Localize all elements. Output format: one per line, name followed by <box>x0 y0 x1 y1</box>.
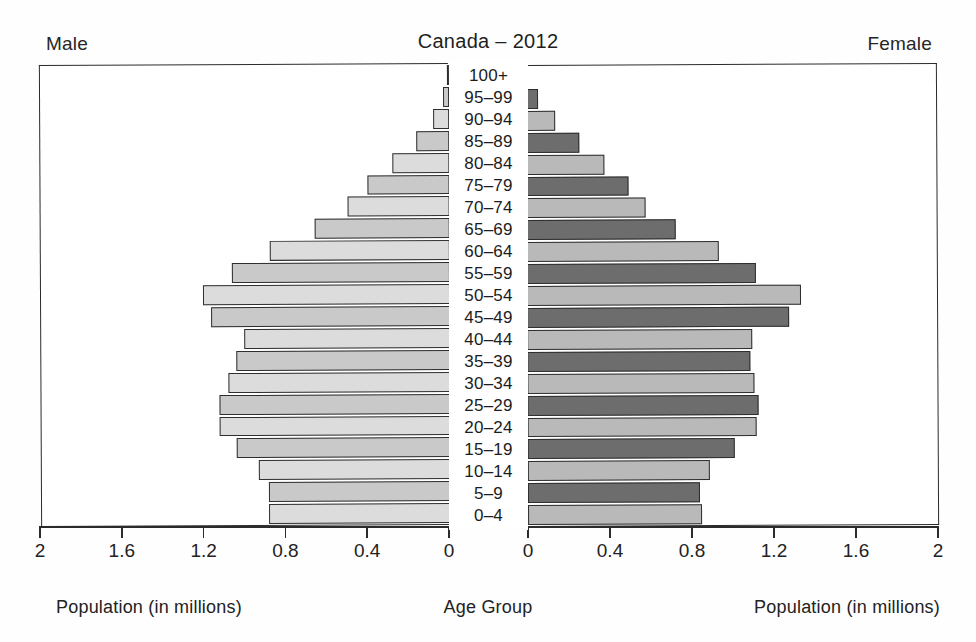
age-group-label: 35–39 <box>464 353 512 370</box>
bar-male-20_24 <box>220 415 451 436</box>
bar-row <box>527 152 936 176</box>
bar-row <box>41 261 449 285</box>
bar-row <box>41 371 449 395</box>
age-group-label-row: 50–54 <box>449 284 528 306</box>
age-group-label-row: 60–64 <box>449 240 528 262</box>
bar-female-90_94 <box>526 111 555 131</box>
bar-row <box>528 217 937 241</box>
age-group-label: 80–84 <box>464 155 512 172</box>
age-group-label-row: 100+ <box>449 64 528 86</box>
age-group-label: 15–19 <box>464 441 512 458</box>
age-group-label: 40–44 <box>464 331 512 348</box>
bar-male-40_44 <box>244 328 450 349</box>
age-group-label: 85–89 <box>464 133 512 150</box>
bar-row <box>527 86 936 110</box>
age-group-label-row: 15–19 <box>449 438 528 460</box>
axis-tick-label: 1.2 <box>761 540 787 562</box>
bar-row <box>41 349 449 373</box>
bar-male-60_64 <box>270 240 450 261</box>
age-group-label-row: 5–9 <box>449 482 528 504</box>
bar-male-55_59 <box>232 262 450 283</box>
axis-tick <box>203 526 205 538</box>
axis-tick-label: 0.8 <box>272 540 298 562</box>
bar-male-80_84 <box>392 153 449 173</box>
bar-female-5_9 <box>528 482 700 503</box>
female-x-axis: 00.40.81.21.62 <box>528 526 938 542</box>
bar-row <box>528 349 937 373</box>
bar-row <box>528 195 937 219</box>
male-axis-spine <box>40 526 449 528</box>
bar-male-15_19 <box>237 437 451 458</box>
age-group-label: 5–9 <box>474 485 503 502</box>
bar-female-25_29 <box>527 394 758 415</box>
bar-female-85_89 <box>526 132 579 152</box>
age-group-label: 45–49 <box>464 309 512 326</box>
axis-tick <box>39 526 41 538</box>
age-group-label: 100+ <box>469 67 508 84</box>
age-group-label-row: 55–59 <box>449 262 528 284</box>
bar-row <box>42 436 450 460</box>
bar-row <box>528 239 937 263</box>
bar-female-60_64 <box>527 241 719 262</box>
bar-row <box>527 64 936 88</box>
female-panel-label: Female <box>867 33 932 55</box>
bar-male-50_54 <box>203 284 450 305</box>
axis-tick <box>121 526 123 538</box>
age-group-label-row: 45–49 <box>449 306 528 328</box>
bar-row <box>40 86 448 110</box>
age-group-label-row: 95–99 <box>449 86 528 108</box>
bar-male-70_74 <box>348 196 450 216</box>
age-group-axis: 100+95–9990–9485–8980–8475–7970–7465–696… <box>449 60 528 530</box>
bar-row <box>527 174 936 198</box>
age-group-label: 55–59 <box>464 265 512 282</box>
bar-male-5_9 <box>269 481 451 502</box>
bar-row <box>40 64 448 88</box>
axis-tick <box>937 526 939 538</box>
bar-row <box>40 130 448 154</box>
age-group-label-row: 70–74 <box>449 196 528 218</box>
male-x-axis: 21.61.20.80.40 <box>40 526 449 542</box>
bar-female-75_79 <box>526 176 628 196</box>
bar-female-45_49 <box>527 307 789 328</box>
bar-female-55_59 <box>527 263 756 284</box>
bar-female-30_34 <box>527 373 754 394</box>
age-group-label-row: 80–84 <box>449 152 528 174</box>
axis-tick-label: 0 <box>444 540 455 562</box>
bar-row <box>41 217 449 241</box>
bar-row <box>527 108 936 132</box>
bar-male-90_94 <box>433 109 449 129</box>
bar-row <box>529 436 938 460</box>
axis-tick <box>285 526 287 538</box>
age-group-label-row: 30–34 <box>449 372 528 394</box>
bar-female-10_14 <box>528 460 710 481</box>
age-group-label-row: 25–29 <box>449 394 528 416</box>
age-group-label-row: 40–44 <box>449 328 528 350</box>
age-group-label: 10–14 <box>464 463 512 480</box>
axis-tick <box>855 526 857 538</box>
male-plot-panel <box>39 63 450 527</box>
bar-row <box>41 305 449 329</box>
female-axis-caption: Population (in millions) <box>754 597 940 618</box>
bar-row <box>528 305 937 329</box>
bar-male-10_14 <box>259 459 451 480</box>
bar-female-20_24 <box>528 416 757 437</box>
axis-tick-label: 1.6 <box>109 540 135 562</box>
bar-row <box>528 283 937 307</box>
age-group-label: 70–74 <box>464 199 512 216</box>
bar-female-15_19 <box>528 438 735 459</box>
bar-female-50_54 <box>527 285 801 306</box>
bar-male-30_34 <box>228 372 450 393</box>
female-bar-rows <box>527 64 938 526</box>
bar-row <box>40 152 448 176</box>
age-group-label-row: 35–39 <box>449 350 528 372</box>
age-group-label: 50–54 <box>464 287 512 304</box>
bar-row <box>529 480 938 504</box>
axis-tick <box>609 526 611 538</box>
chart-title: Canada – 2012 <box>0 30 976 53</box>
bar-male-25_29 <box>220 394 451 415</box>
age-group-label: 60–64 <box>464 243 512 260</box>
axis-tick <box>773 526 775 538</box>
bar-row <box>529 458 938 482</box>
bar-row <box>41 195 449 219</box>
bar-row <box>41 283 449 307</box>
